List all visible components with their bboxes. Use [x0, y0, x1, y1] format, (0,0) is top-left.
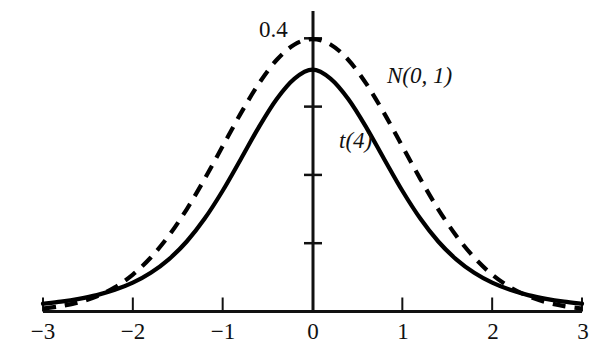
- series-annotation-normal: N(0, 1): [387, 63, 452, 89]
- x-axis-tick-label-neg3: −3: [21, 320, 65, 343]
- series-annotation-t4: t(4): [339, 128, 372, 154]
- x-axis-tick-label-neg1: −1: [201, 320, 245, 343]
- distribution-plot: [0, 0, 610, 352]
- x-axis-tick-label-1: 1: [381, 320, 425, 343]
- x-axis-tick-label-neg2: −2: [111, 320, 155, 343]
- x-axis-tick-label-3: 3: [561, 320, 605, 343]
- x-axis-tick-label-0: 0: [291, 320, 335, 343]
- chart-figure: 0.4 −3 −2 −1 0 1 2 3 N(0, 1) t(4): [0, 0, 610, 352]
- x-axis-tick-label-2: 2: [471, 320, 515, 343]
- y-axis-tick-label-0-4: 0.4: [259, 17, 288, 43]
